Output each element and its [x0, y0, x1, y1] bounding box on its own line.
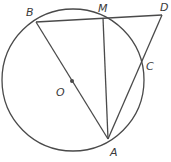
- segment-ad: [108, 15, 162, 139]
- label-d: D: [160, 1, 168, 14]
- segment-ma: [103, 18, 108, 139]
- label-b: B: [26, 6, 34, 19]
- label-o: O: [56, 86, 65, 99]
- label-m: M: [98, 2, 108, 15]
- diagram-canvas: B M D C A O: [0, 0, 171, 162]
- geometry-diagram: B M D C A O: [0, 0, 171, 162]
- label-c: C: [146, 60, 154, 73]
- center-point-o: [70, 79, 74, 83]
- segment-bd: [36, 15, 162, 22]
- label-a: A: [109, 146, 118, 159]
